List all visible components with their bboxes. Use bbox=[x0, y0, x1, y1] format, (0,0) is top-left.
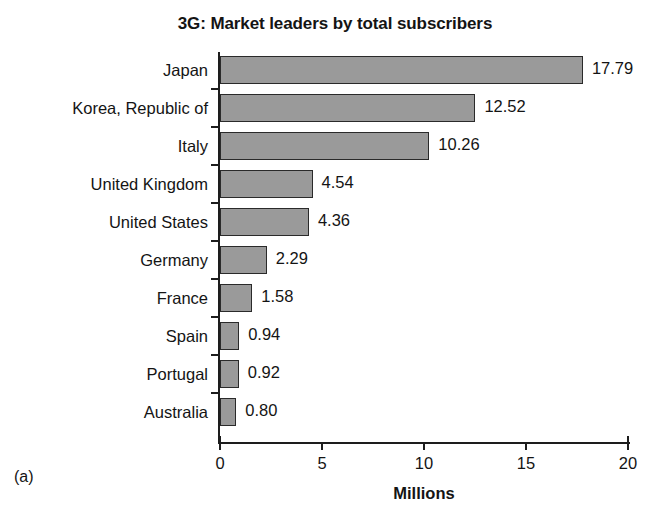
x-axis-tick bbox=[423, 442, 425, 450]
category-label-portugal: Portugal bbox=[147, 360, 208, 388]
bar-value-label: 10.26 bbox=[438, 135, 479, 154]
bar-value-label: 0.92 bbox=[248, 363, 280, 382]
bar bbox=[220, 94, 475, 122]
y-axis-tick bbox=[211, 88, 219, 90]
bar-row: 17.79 bbox=[220, 56, 628, 84]
bar-value-label: 0.94 bbox=[248, 325, 280, 344]
y-axis-tick bbox=[211, 240, 219, 242]
y-axis-tick bbox=[211, 202, 219, 204]
category-label-united-kingdom: United Kingdom bbox=[91, 170, 208, 198]
figure-caption: (a) bbox=[14, 468, 34, 486]
y-axis-tick bbox=[211, 164, 219, 166]
bar-value-label: 4.54 bbox=[322, 173, 354, 192]
x-axis-tick-label: 15 bbox=[517, 454, 535, 473]
bar-row: 0.92 bbox=[220, 360, 628, 388]
category-label-united-states: United States bbox=[109, 208, 208, 236]
bar-row: 4.36 bbox=[220, 208, 628, 236]
y-axis-tick bbox=[211, 354, 219, 356]
bar-value-label: 2.29 bbox=[276, 249, 308, 268]
y-axis-tick bbox=[211, 392, 219, 394]
x-axis-tick bbox=[525, 442, 527, 450]
y-axis-tick bbox=[211, 278, 219, 280]
bar-value-label: 1.58 bbox=[261, 287, 293, 306]
bar bbox=[220, 170, 313, 198]
x-axis-tick-label: 0 bbox=[215, 454, 224, 473]
bar-row: 4.54 bbox=[220, 170, 628, 198]
plot-area: 17.7912.5210.264.544.362.291.580.940.920… bbox=[220, 56, 628, 442]
bar-row: 10.26 bbox=[220, 132, 628, 160]
x-axis-title: Millions bbox=[220, 484, 628, 503]
x-axis-start-cap bbox=[219, 436, 221, 443]
x-axis-tick bbox=[321, 442, 323, 450]
bar bbox=[220, 284, 252, 312]
x-axis-tick bbox=[627, 442, 629, 450]
bar-row: 12.52 bbox=[220, 94, 628, 122]
bar-row: 2.29 bbox=[220, 246, 628, 274]
x-axis-tick-label: 20 bbox=[619, 454, 637, 473]
category-label-italy: Italy bbox=[178, 132, 208, 160]
category-label-spain: Spain bbox=[166, 322, 208, 350]
bar-value-label: 17.79 bbox=[592, 59, 633, 78]
bar-value-label: 4.36 bbox=[318, 211, 350, 230]
category-label-korea-republic-of: Korea, Republic of bbox=[72, 94, 208, 122]
bar bbox=[220, 360, 239, 388]
figure-container: 3G: Market leaders by total subscribers … bbox=[0, 0, 670, 524]
x-axis-tick bbox=[219, 442, 221, 450]
bar-value-label: 0.80 bbox=[245, 401, 277, 420]
bar bbox=[220, 398, 236, 426]
category-label-france: France bbox=[157, 284, 208, 312]
x-axis-tick-label: 10 bbox=[415, 454, 433, 473]
bar-value-label: 12.52 bbox=[484, 97, 525, 116]
y-axis-tick bbox=[211, 316, 219, 318]
bar-row: 0.94 bbox=[220, 322, 628, 350]
y-axis-tick bbox=[211, 126, 219, 128]
bar-row: 1.58 bbox=[220, 284, 628, 312]
x-axis-tick-label: 5 bbox=[317, 454, 326, 473]
bar bbox=[220, 132, 429, 160]
x-axis-end-cap bbox=[627, 436, 629, 443]
bar bbox=[220, 246, 267, 274]
category-label-australia: Australia bbox=[144, 398, 208, 426]
bar-row: 0.80 bbox=[220, 398, 628, 426]
bar bbox=[220, 322, 239, 350]
bar bbox=[220, 208, 309, 236]
category-label-germany: Germany bbox=[140, 246, 208, 274]
category-label-japan: Japan bbox=[163, 56, 208, 84]
chart-title: 3G: Market leaders by total subscribers bbox=[0, 14, 670, 34]
bar bbox=[220, 56, 583, 84]
